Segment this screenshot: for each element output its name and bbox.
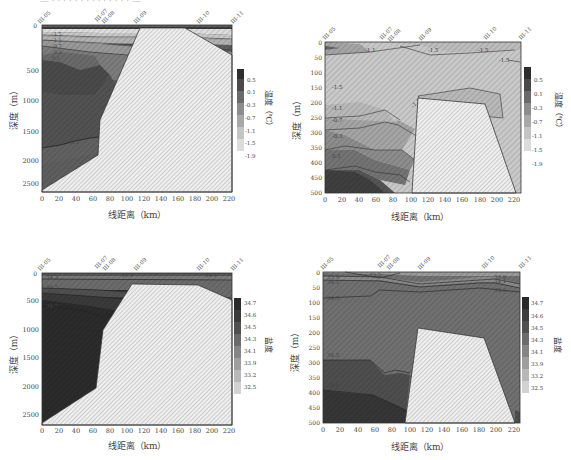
x-tick: 80 (106, 195, 114, 203)
svg-text:0.5: 0.5 (247, 77, 256, 83)
y-tick: 1000 (22, 97, 39, 105)
station-label: III-10 (195, 9, 210, 24)
svg-text:180: 180 (189, 427, 201, 435)
svg-text:50: 50 (312, 284, 320, 291)
svg-text:34.1: 34.1 (531, 349, 543, 355)
svg-text:120: 120 (421, 426, 433, 434)
svg-text:1000: 1000 (22, 326, 39, 334)
svg-text:盐度: 盐度 (553, 337, 563, 353)
svg-text:200: 200 (491, 196, 503, 204)
svg-text:220: 220 (223, 427, 235, 435)
svg-text:33.9: 33.9 (244, 360, 257, 366)
svg-text:33.2: 33.2 (369, 272, 381, 278)
svg-text:-1.9: -1.9 (532, 161, 543, 167)
panel-temp-deep: 0.1 -1.5 -1.1 -0.7 -0.3 0.1 III-05 III-0… (8, 7, 274, 220)
svg-text:60: 60 (372, 196, 380, 204)
svg-text:80: 80 (388, 426, 396, 434)
svg-text:0: 0 (316, 269, 320, 276)
svg-text:2500: 2500 (22, 411, 39, 419)
svg-text:33.2: 33.2 (244, 372, 256, 378)
svg-text:500: 500 (309, 419, 321, 426)
svg-text:220: 220 (508, 196, 520, 204)
x-axis-label: 线距离（km） (108, 209, 167, 220)
svg-text:400: 400 (311, 159, 323, 166)
svg-text:-1.5: -1.5 (245, 140, 256, 146)
y-tick: 500 (27, 67, 39, 75)
y-tick: 2500 (22, 180, 39, 188)
svg-text:34.5: 34.5 (327, 352, 340, 358)
svg-text:100: 100 (405, 196, 417, 204)
svg-text:60: 60 (89, 427, 97, 435)
svg-text:80: 80 (389, 196, 397, 204)
svg-text:34.7: 34.7 (46, 303, 59, 309)
svg-text:200: 200 (206, 427, 218, 435)
figure-canvas: 0.1 -1.5 -1.1 -0.7 -0.3 0.1 III-05 III-0… (0, 0, 571, 460)
svg-text:-1.5: -1.5 (478, 47, 489, 53)
svg-text:34.6: 34.6 (244, 312, 257, 318)
svg-text:33.2: 33.2 (531, 373, 543, 379)
x-tick: 140 (155, 195, 167, 203)
svg-text:33.9: 33.9 (531, 361, 544, 367)
svg-text:2000: 2000 (22, 383, 39, 391)
station-label: III-05 (36, 9, 51, 24)
svg-text:深度（m）: 深度（m） (8, 330, 19, 375)
svg-text:盐度: 盐度 (264, 337, 274, 353)
svg-text:40: 40 (355, 196, 363, 204)
svg-text:-0.3: -0.3 (245, 102, 256, 108)
svg-text:34.1: 34.1 (327, 279, 339, 285)
svg-text:-0.3: -0.3 (532, 105, 543, 111)
svg-text:0.5: 0.5 (534, 77, 543, 83)
x-tick: 200 (206, 195, 218, 203)
contour-label: 0.1 (70, 138, 80, 145)
svg-text:III-10: III-10 (195, 256, 210, 271)
svg-text:100: 100 (311, 69, 323, 76)
svg-text:140: 140 (438, 426, 450, 434)
svg-text:0: 0 (33, 270, 37, 277)
svg-text:34.1: 34.1 (244, 348, 256, 354)
svg-text:-0.7: -0.7 (532, 119, 543, 125)
svg-text:60: 60 (371, 426, 379, 434)
y-tick: 2000 (22, 157, 39, 165)
x-tick: 100 (121, 195, 133, 203)
svg-text:0.1: 0.1 (247, 89, 256, 95)
svg-text:50: 50 (314, 54, 322, 61)
x-tick: 220 (223, 195, 235, 203)
svg-text:200: 200 (309, 329, 321, 336)
svg-text:80: 80 (106, 427, 114, 435)
svg-text:34.5: 34.5 (244, 324, 257, 330)
svg-text:500: 500 (27, 297, 39, 305)
svg-text:20: 20 (338, 196, 346, 204)
svg-text:III-05: III-05 (321, 25, 336, 40)
svg-text:-1.1: -1.1 (332, 105, 343, 111)
svg-text:34.1: 34.1 (494, 278, 506, 284)
svg-text:140: 140 (439, 196, 451, 204)
svg-text:0.1: 0.1 (534, 91, 543, 97)
svg-text:180: 180 (473, 426, 485, 434)
svg-text:线距离（km）: 线距离（km） (108, 440, 167, 451)
svg-text:III-11: III-11 (517, 26, 532, 41)
svg-text:线距离（km）: 线距离（km） (391, 211, 450, 222)
svg-text:500: 500 (311, 189, 323, 196)
svg-text:-0.3: -0.3 (332, 133, 343, 139)
svg-text:-1.9: -1.9 (245, 153, 256, 159)
svg-text:140: 140 (155, 427, 167, 435)
svg-text:34.3: 34.3 (46, 274, 59, 280)
svg-text:-1.1: -1.1 (365, 47, 376, 53)
svg-text:III-10: III-10 (480, 254, 495, 269)
svg-text:100: 100 (404, 426, 416, 434)
svg-text:深度（m）: 深度（m） (289, 328, 300, 373)
svg-text:450: 450 (311, 174, 323, 181)
svg-text:220: 220 (508, 426, 520, 434)
svg-text:III-09: III-09 (132, 256, 147, 271)
panel-sal-deep: 34.3 34.5 34.6 34.7 34.1 34.1 III-05 III… (8, 254, 274, 451)
svg-text:0: 0 (321, 426, 325, 434)
svg-text:350: 350 (311, 144, 323, 151)
x-tick: 40 (72, 195, 80, 203)
panel-temp-upper: -1.1 -1.5 -1.5 -1.5 -1.5 -1.5 -1.1 -0.7 … (291, 25, 564, 222)
svg-text:III-05: III-05 (319, 255, 334, 270)
svg-text:1500: 1500 (22, 354, 39, 362)
svg-text:34.6: 34.6 (531, 313, 544, 319)
colorbar-temperature: 0.5 0.1 -0.3 -0.7 -1.1 -1.5 -1.9 温度（℃） (524, 67, 564, 167)
svg-text:0: 0 (318, 39, 322, 46)
svg-text:32.5: 32.5 (531, 385, 544, 391)
